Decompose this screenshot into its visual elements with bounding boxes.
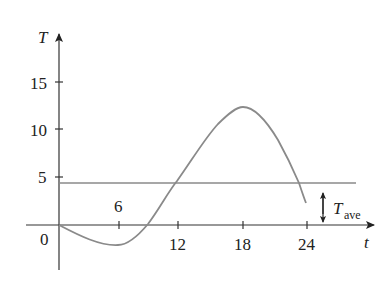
t-ave-label-main: T [333, 199, 344, 218]
temperature-chart: T t 0 5 10 15 6 12 18 24 T ave [0, 0, 384, 284]
x-tick-label-18: 18 [234, 235, 251, 254]
y-axis-label: T [38, 28, 49, 47]
t-ave-label-sub: ave [344, 208, 361, 222]
origin-label: 0 [40, 230, 49, 249]
x-tick-label-24: 24 [298, 235, 316, 254]
y-tick-label-5: 5 [38, 168, 47, 187]
temperature-curve [59, 107, 306, 245]
x-tick-label-6: 6 [114, 197, 123, 216]
y-tick-label-15: 15 [30, 74, 47, 93]
y-tick-label-10: 10 [30, 121, 47, 140]
x-tick-label-12: 12 [169, 235, 186, 254]
x-axis-label: t [364, 233, 370, 252]
